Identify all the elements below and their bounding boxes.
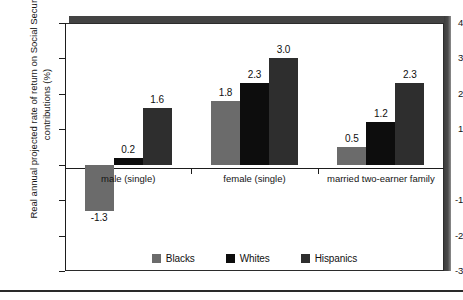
bar [269,58,298,164]
bar-value-label: 3.0 [264,44,304,55]
legend-swatch-icon [226,254,235,263]
legend-swatch-icon [152,254,161,263]
bar [211,101,240,165]
bar [366,122,395,165]
chart-legend: BlacksWhitesHispanics [65,250,444,266]
legend-label: Whites [240,253,270,264]
category-label: married two-earner family [318,173,444,184]
bar [337,147,366,165]
bar [240,83,269,164]
legend-swatch-icon [301,254,310,263]
page-bottom-rule [0,290,463,292]
legend-item: Blacks [152,253,195,264]
bar-value-label: -1.3 [79,212,119,223]
bar-chart-figure: 4321-1-2-3 Real annual projected rate of… [0,0,463,300]
legend-label: Blacks [166,253,195,264]
category-label: male (single) [65,173,191,184]
category-label: female (single) [191,173,317,184]
legend-item: Whites [226,253,270,264]
legend-label: Hispanics [315,253,357,264]
bar [143,108,172,165]
bar-value-label: 2.3 [390,69,430,80]
bar [395,83,424,164]
bar [85,165,114,211]
legend-item: Hispanics [301,253,357,264]
bar-value-label: 1.6 [137,94,177,105]
bar [114,158,143,165]
